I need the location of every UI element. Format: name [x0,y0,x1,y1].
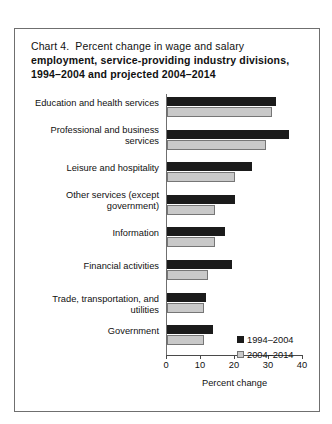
x-tick-mark [234,355,235,359]
category-label: Information [23,228,159,240]
category-label-line: Professional and business [50,125,159,135]
plot-area: Education and health servicesProfessiona… [15,91,321,359]
category-label-line: Trade, transportation, and utilities [52,294,159,316]
bar-1994-2004 [167,293,206,302]
chart-figure-box: Chart 4. Percent change in wage and sala… [14,28,320,412]
bar-group: Information [15,224,321,257]
x-tick-mark [166,355,167,359]
category-label: Leisure and hospitality [23,163,159,175]
light-square-swatch [237,351,244,358]
chart-legend: 1994–20042004–2014 [237,332,294,362]
x-tick-mark [200,355,201,359]
category-label: Financial activities [23,261,159,273]
bar-1994-2004 [167,325,213,334]
bar-group: Financial activities [15,257,321,290]
category-label-line: Education and health services [35,98,159,108]
category-label-line: Information [112,228,159,238]
bar-1994-2004 [167,260,232,269]
bar-2004-2014 [167,205,215,215]
bar-2004-2014 [167,107,272,117]
chart-title-line-3: 1994–2004 and projected 2004–2014 [31,67,303,81]
chart-title-text-1: Percent change in wage and salary [75,40,244,52]
bar-2004-2014 [167,303,204,313]
bar-1994-2004 [167,97,276,106]
category-label: Trade, transportation, and utilities [23,294,159,317]
category-label-line: services [125,136,159,146]
bar-1994-2004 [167,162,252,171]
bar-1994-2004 [167,227,225,236]
category-label-line: Government [108,326,159,336]
bar-group: Other services (exceptgovernment) [15,192,321,225]
chart-title-block: Chart 4. Percent change in wage and sala… [31,39,303,81]
x-axis-label: Percent change [166,378,303,388]
category-label: Other services (exceptgovernment) [23,190,159,213]
bar-1994-2004 [167,195,235,204]
category-label-line: Leisure and hospitality [66,163,159,173]
legend-label: 2004–2014 [247,350,294,360]
chart-title-line-2: employment, service-providing industry d… [31,53,303,67]
legend-item: 2004–2014 [237,347,294,362]
bar-1994-2004 [167,130,289,139]
bar-group: Education and health services [15,94,321,127]
category-label: Government [23,326,159,338]
category-label: Professional and businessservices [23,125,159,148]
bar-group: Professional and businessservices [15,127,321,160]
category-label-line: Other services (except [66,190,159,200]
legend-label: 1994–2004 [247,335,294,345]
category-label-line: Financial activities [84,261,159,271]
chart-number: Chart 4. [31,40,69,52]
x-tick-label: 0 [151,360,181,370]
bar-2004-2014 [167,237,215,247]
bar-group: Leisure and hospitality [15,159,321,192]
x-tick-label: 10 [185,360,215,370]
chart-title-line-1: Chart 4. Percent change in wage and sala… [31,39,303,53]
category-label: Education and health services [23,98,159,110]
legend-item: 1994–2004 [237,332,294,347]
bar-2004-2014 [167,140,266,150]
bar-2004-2014 [167,172,235,182]
bar-2004-2014 [167,335,204,345]
dark-square-swatch [237,336,244,343]
bar-group: Trade, transportation, and utilities [15,290,321,323]
x-tick-mark [302,355,303,359]
bar-2004-2014 [167,270,208,280]
category-label-line: government) [107,201,159,211]
